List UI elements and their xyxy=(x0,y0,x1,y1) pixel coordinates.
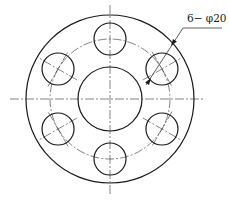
hole-callout-label: 6− φ20 xyxy=(187,13,227,24)
bolt-hole-tangent-centerline xyxy=(152,112,172,147)
bolt-hole-tangent-centerline xyxy=(48,52,68,87)
bolt-hole-tangent-centerline xyxy=(152,52,172,87)
flange-drawing xyxy=(0,0,229,200)
bolt-hole-tangent-centerline xyxy=(48,112,68,147)
leader-line xyxy=(146,28,222,85)
